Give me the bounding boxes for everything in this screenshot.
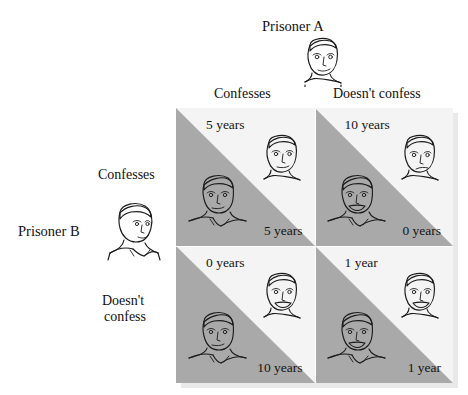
- payoff-prisoner-b: 0 years: [402, 223, 441, 239]
- row-header-confesses: Confesses: [98, 167, 155, 183]
- matrix-cell-confess-confess: 5 years 5 years: [176, 108, 315, 246]
- payoff-prisoner-a: 0 years: [206, 255, 245, 271]
- column-header-doesnt-confess: Doesn't confess: [333, 86, 421, 102]
- prisoner-a-portrait-icon: [296, 33, 348, 87]
- cell-face-prisoner-b-icon: [325, 307, 387, 365]
- prisoner-b-title: Prisoner B: [18, 223, 80, 240]
- cell-face-prisoner-a-icon: [393, 268, 445, 322]
- matrix-horizontal-divider: [176, 246, 453, 247]
- payoff-prisoner-b: 5 years: [264, 223, 303, 239]
- payoff-prisoner-b: 1 year: [408, 360, 441, 376]
- payoff-prisoner-b: 10 years: [257, 360, 302, 376]
- payoff-matrix: 5 years 5 years: [176, 108, 453, 383]
- matrix-cell-notconfess-confess: 0 years 10 years: [176, 246, 315, 384]
- payoff-prisoner-a: 5 years: [206, 117, 245, 133]
- payoff-prisoner-a: 10 years: [345, 117, 390, 133]
- row-header-line2: confess: [104, 309, 146, 325]
- cell-face-prisoner-a-icon: [255, 130, 307, 184]
- prisoner-b-portrait-icon: [100, 198, 166, 262]
- cell-face-prisoner-b-icon: [325, 170, 387, 228]
- cell-face-prisoner-b-icon: [186, 307, 248, 365]
- cell-face-prisoner-b-icon: [186, 170, 248, 228]
- cell-face-prisoner-a-icon: [393, 130, 445, 184]
- row-header-doesnt-confess: Doesn'tconfess: [100, 293, 146, 325]
- payoff-prisoner-a: 1 year: [345, 255, 378, 271]
- matrix-cell-notconfess-notconfess: 1 year 1 year: [315, 246, 454, 384]
- column-header-confesses: Confesses: [214, 86, 271, 102]
- matrix-cell-confess-notconfess: 10 years 0 years: [315, 108, 454, 246]
- cell-face-prisoner-a-icon: [255, 268, 307, 322]
- row-header-line1: Doesn't: [102, 293, 144, 308]
